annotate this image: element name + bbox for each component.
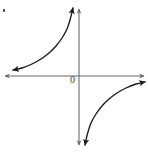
origin-label: 0 <box>70 75 75 85</box>
curve-branch-quadrant-2 <box>13 8 73 70</box>
hyperbola-branch-lower-right <box>85 82 145 145</box>
stray-mark-icon <box>3 9 5 12</box>
curve-branch-quadrant-4 <box>85 82 145 145</box>
hyperbola-branch-upper-left <box>13 8 73 70</box>
hyperbola-figure: 0 <box>0 0 148 153</box>
